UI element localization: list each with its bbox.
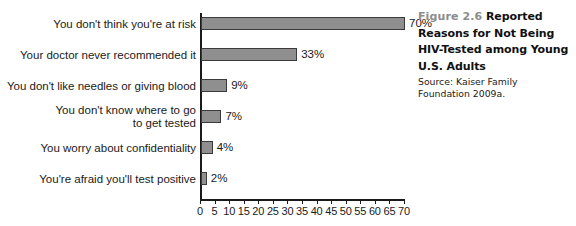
bar-row: You don't know where to go to get tested… xyxy=(0,107,412,137)
bar-chart: 0510152025303540455055606570 You don't t… xyxy=(0,0,412,226)
x-axis-tick xyxy=(317,199,318,204)
caption-heading: Figure 2.6 Reported Reasons for Not Bein… xyxy=(418,8,570,74)
category-label: You don't like needles or giving blood xyxy=(0,80,196,93)
x-axis-tick-label: 55 xyxy=(354,205,366,217)
bar xyxy=(201,110,221,123)
bar xyxy=(201,48,297,61)
bar xyxy=(201,79,227,92)
x-axis-tick xyxy=(258,199,259,204)
x-axis-tick xyxy=(389,199,390,204)
x-axis-tick-label: 15 xyxy=(238,205,250,217)
x-axis-tick-label: 60 xyxy=(369,205,381,217)
bar-value-label: 9% xyxy=(231,79,248,91)
bar xyxy=(201,17,405,30)
bar-row: You worry about confidentiality4% xyxy=(0,138,412,168)
bar-row: Your doctor never recommended it33% xyxy=(0,45,412,75)
bar xyxy=(201,141,213,154)
figure-source: Source: Kaiser Family Foundation 2009a. xyxy=(418,76,570,100)
figure-number: Figure 2.6 xyxy=(418,10,482,23)
bar-row: You don't like needles or giving blood9% xyxy=(0,76,412,106)
x-axis-tick-label: 5 xyxy=(212,205,218,217)
x-axis-tick xyxy=(273,199,274,204)
bar-row: You're afraid you'll test positive2% xyxy=(0,169,412,199)
x-axis-tick xyxy=(346,199,347,204)
x-axis-tick xyxy=(229,199,230,204)
x-axis-tick-label: 50 xyxy=(340,205,352,217)
bar-value-label: 2% xyxy=(211,172,228,184)
x-axis-tick xyxy=(200,199,201,204)
x-axis-tick-label: 45 xyxy=(325,205,337,217)
x-axis-tick-label: 35 xyxy=(296,205,308,217)
x-axis-tick xyxy=(287,199,288,204)
x-axis-tick xyxy=(404,199,405,204)
x-axis-tick-label: 70 xyxy=(398,205,410,217)
x-axis-tick xyxy=(375,199,376,204)
figure-caption: Figure 2.6 Reported Reasons for Not Bein… xyxy=(418,8,570,100)
bar xyxy=(201,172,207,185)
bar-value-label: 4% xyxy=(217,141,234,153)
x-axis-tick-label: 10 xyxy=(223,205,235,217)
bar-value-label: 33% xyxy=(301,48,324,60)
x-axis-tick xyxy=(244,199,245,204)
x-axis-tick-label: 20 xyxy=(252,205,264,217)
x-axis-tick-label: 25 xyxy=(267,205,279,217)
category-label: Your doctor never recommended it xyxy=(0,49,196,62)
x-axis-tick-label: 30 xyxy=(282,205,294,217)
category-label: You worry about confidentiality xyxy=(0,142,196,155)
x-axis-tick-label: 40 xyxy=(311,205,323,217)
x-axis-tick xyxy=(331,199,332,204)
x-axis-tick xyxy=(302,199,303,204)
category-label: You don't know where to go to get tested xyxy=(0,104,196,130)
x-axis-tick xyxy=(215,199,216,204)
bar-value-label: 7% xyxy=(225,110,242,122)
x-axis-tick-label: 0 xyxy=(197,205,203,217)
category-label: You don't think you're at risk xyxy=(0,18,196,31)
category-label: You're afraid you'll test positive xyxy=(0,173,196,186)
x-axis-tick xyxy=(360,199,361,204)
bar-row: You don't think you're at risk70% xyxy=(0,14,412,44)
x-axis-tick-label: 65 xyxy=(384,205,396,217)
